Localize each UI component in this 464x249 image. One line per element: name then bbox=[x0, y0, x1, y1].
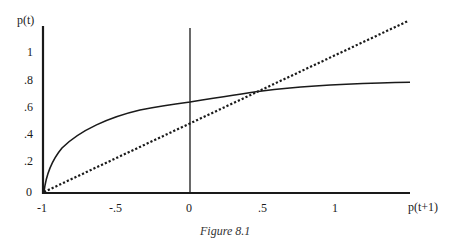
x-tick-label: -.5 bbox=[109, 201, 122, 215]
dotted-diagonal-series bbox=[44, 21, 408, 192]
y-tick-label: .4 bbox=[24, 127, 33, 141]
y-axis-label: p(t) bbox=[17, 13, 34, 27]
y-tick-label: 1 bbox=[27, 45, 33, 59]
x-tick-label: -1 bbox=[37, 201, 47, 215]
chart: p(t) p(t+1) 1 .8 .6 .4 .2 0 -1 -.5 0 .5 … bbox=[0, 0, 464, 249]
y-tick-label: .2 bbox=[24, 154, 33, 168]
x-tick-label: 1 bbox=[332, 201, 338, 215]
x-tick-label: .5 bbox=[258, 201, 267, 215]
x-axis-label: p(t+1) bbox=[408, 200, 438, 214]
y-tick-label: .8 bbox=[24, 73, 33, 87]
figure-caption: Figure 8.1 bbox=[199, 224, 250, 238]
solid-curve-series bbox=[44, 82, 410, 192]
y-tick-label: .6 bbox=[24, 100, 33, 114]
x-tick-label: 0 bbox=[186, 201, 192, 215]
y-tick-label: 0 bbox=[26, 185, 32, 199]
